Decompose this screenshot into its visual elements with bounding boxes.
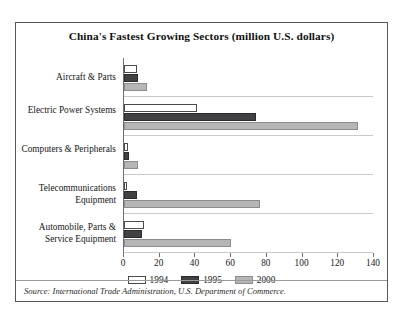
category-label: Aircraft & Parts — [14, 72, 116, 84]
x-tick-label: 0 — [121, 258, 126, 268]
bar-1994-3 — [124, 143, 128, 151]
bar-2000-3 — [124, 161, 138, 169]
x-tick-label: 60 — [225, 258, 234, 268]
bar-2000-1 — [124, 83, 147, 91]
plot-area: Aircraft & PartsElectric Power SystemsCo… — [123, 58, 373, 253]
x-tick-label: 20 — [154, 258, 163, 268]
bar-1994-4 — [124, 182, 127, 190]
source-note: Source: International Trade Administrati… — [24, 286, 286, 296]
source-divider — [16, 280, 387, 281]
x-axis-ticks: 020406080100120140 — [123, 253, 374, 273]
bar-1995-1 — [124, 74, 138, 82]
bar-2000-5 — [124, 239, 231, 247]
bar-1994-2 — [124, 104, 197, 112]
x-tick — [159, 253, 160, 257]
bar-1994-1 — [124, 65, 137, 73]
bar-group — [124, 136, 373, 175]
bar-group — [124, 97, 373, 136]
bar-2000-4 — [124, 200, 260, 208]
bar-1995-3 — [124, 152, 129, 160]
bar-group — [124, 175, 373, 214]
bar-1995-2 — [124, 113, 256, 121]
bar-group — [124, 58, 373, 97]
x-tick — [230, 253, 231, 257]
chart-title: China's Fastest Growing Sectors (million… — [16, 30, 387, 42]
x-tick — [123, 253, 124, 257]
bar-group — [124, 214, 373, 253]
x-tick-label: 40 — [190, 258, 199, 268]
category-label: Electric Power Systems — [14, 105, 116, 117]
bar-1994-5 — [124, 221, 144, 229]
category-label: Telecommunications Equipment — [14, 183, 116, 206]
x-tick — [337, 253, 338, 257]
x-tick-label: 140 — [366, 258, 380, 268]
x-tick-label: 120 — [330, 258, 344, 268]
chart-figure: China's Fastest Growing Sectors (million… — [15, 22, 388, 302]
bar-1995-5 — [124, 230, 142, 238]
category-label: Automobile, Parts & Service Equipment — [14, 222, 116, 245]
x-tick — [302, 253, 303, 257]
x-tick-label: 100 — [295, 258, 309, 268]
x-tick — [194, 253, 195, 257]
x-tick-label: 80 — [261, 258, 270, 268]
category-label: Computers & Peripherals — [14, 144, 116, 156]
bar-1995-4 — [124, 191, 137, 199]
bar-2000-2 — [124, 122, 358, 130]
x-tick — [373, 253, 374, 257]
x-tick — [266, 253, 267, 257]
